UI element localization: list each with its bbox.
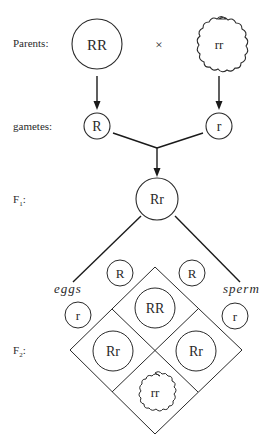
arrowhead-icon	[94, 101, 101, 110]
eggs-label: eggs	[54, 281, 82, 297]
parent-rr-dominant-label: RR	[87, 37, 107, 53]
punnett-cell-left: Rr	[93, 331, 133, 371]
parent-wrinkled-seed: rr	[197, 17, 248, 72]
egg-gamete-r: r	[65, 302, 91, 328]
row-label-f2: F2:	[13, 344, 26, 359]
svg-text:r: r	[76, 308, 81, 323]
svg-text:Rr: Rr	[106, 344, 120, 359]
row-label-f1: F1:	[13, 193, 26, 208]
mendel-cross-diagram: RR × rr R r Rr	[0, 0, 272, 448]
svg-text:Rr: Rr	[189, 344, 203, 359]
parent-round-seed: RR	[72, 19, 122, 69]
svg-text:R: R	[116, 266, 125, 281]
svg-text:R: R	[188, 266, 197, 281]
row-label-gametes: gametes:	[13, 120, 52, 132]
svg-text:RR: RR	[146, 301, 165, 316]
svg-text:R: R	[92, 119, 102, 134]
egg-gamete-R: R	[107, 260, 133, 286]
punnett-cell-top: RR	[135, 288, 175, 328]
arrowhead-icon	[216, 101, 223, 110]
line-to-sperm	[175, 216, 240, 282]
svg-text:r: r	[217, 119, 222, 134]
gamete-R: R	[84, 113, 110, 139]
parent-rr-recessive-label: rr	[215, 37, 224, 52]
sperm-label: sperm	[223, 281, 260, 297]
svg-text:rr: rr	[151, 385, 160, 400]
fertilization-line-right	[157, 133, 203, 148]
punnett-cell-right: Rr	[176, 331, 216, 371]
sperm-gamete-r: r	[222, 303, 248, 329]
arrowhead-icon	[154, 168, 161, 177]
sperm-gamete-R: R	[179, 260, 205, 286]
cross-symbol: ×	[155, 37, 162, 52]
gamete-r: r	[206, 113, 232, 139]
f1-seed: Rr	[136, 178, 178, 220]
fertilization-line-left	[113, 133, 157, 148]
svg-text:r: r	[233, 309, 238, 324]
svg-text:Rr: Rr	[150, 192, 164, 207]
punnett-cell-bottom-wrinkled: rr	[139, 372, 176, 411]
row-label-parents: Parents:	[13, 37, 48, 49]
